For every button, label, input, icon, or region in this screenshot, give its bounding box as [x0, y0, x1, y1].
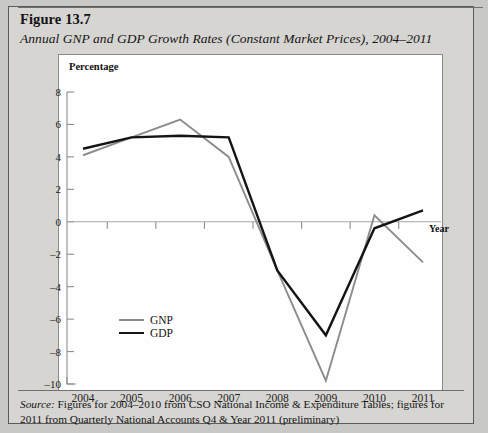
legend-label-gnp: GNP [150, 314, 173, 326]
legend-swatch-gnp-icon [119, 319, 144, 321]
legend-item-gdp: GDP [119, 326, 173, 339]
y-tick-label: 2 [56, 183, 62, 195]
x-tick-mark-group [107, 222, 398, 229]
y-tick-label: 0 [56, 216, 62, 228]
legend-item-gnp: GNP [119, 313, 173, 326]
y-tick-label: –6 [49, 313, 62, 325]
source-separator-rule [18, 390, 464, 391]
y-tick-label: 6 [56, 118, 62, 130]
y-tick-label: 8 [56, 86, 62, 98]
y-tick-label: –2 [49, 248, 61, 260]
axis-corner [67, 377, 76, 384]
chart-legend: GNP GDP [119, 313, 173, 339]
source-text: Figures for 2004–2010 from CSO National … [20, 398, 444, 425]
legend-swatch-gdp-icon [119, 332, 144, 334]
source-note: Source: Figures for 2004–2010 from CSO N… [20, 397, 466, 427]
y-tick-mark-group [67, 92, 74, 384]
y-tick-label: 4 [56, 151, 62, 163]
source-label: Source: [20, 398, 55, 410]
y-tick-label: –8 [49, 346, 62, 358]
series-line-gnp [83, 120, 423, 381]
legend-label-gdp: GDP [150, 327, 173, 339]
y-tick-label-group: 86420–2–4–6–8–10 [44, 86, 62, 390]
series-line-gdp [83, 136, 423, 336]
figure-panel: Figure 13.7 Annual GNP and GDP Growth Ra… [8, 6, 474, 424]
y-tick-label: –4 [49, 281, 62, 293]
line-chart: 86420–2–4–6–8–10 20042005200620072008200… [9, 7, 475, 425]
y-tick-label: –10 [44, 378, 62, 390]
